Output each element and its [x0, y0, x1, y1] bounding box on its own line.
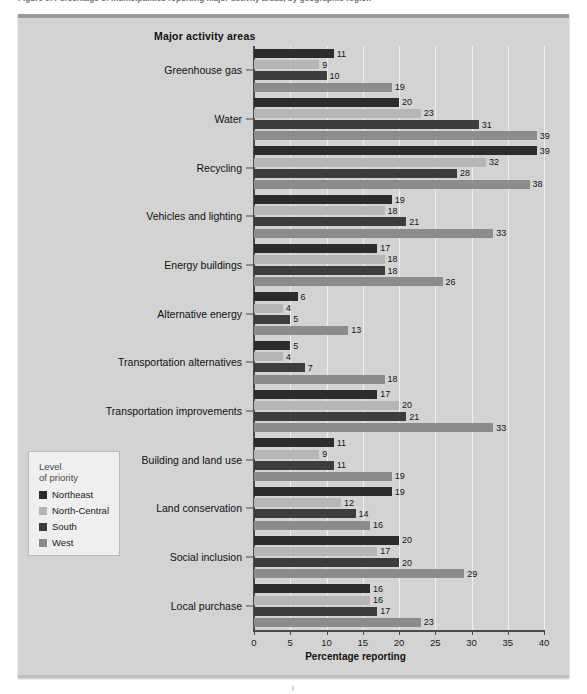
bar-group: Recycling39322838	[254, 143, 544, 192]
bar[interactable]	[254, 255, 385, 264]
bar-row: 38	[254, 180, 544, 189]
bar-value-label: 5	[290, 314, 298, 324]
bar-row: 11	[254, 49, 544, 58]
bar[interactable]	[254, 450, 319, 459]
x-axis-tick-label: 0	[251, 637, 256, 648]
bar[interactable]	[254, 547, 377, 556]
bar[interactable]	[254, 98, 399, 107]
bar[interactable]	[254, 120, 479, 129]
bar[interactable]	[254, 229, 493, 238]
bar-value-label: 4	[283, 352, 291, 362]
bar[interactable]	[254, 438, 334, 447]
bar[interactable]	[254, 584, 370, 593]
figure-caption-strip: Figure 9. Percentage of municipalities r…	[0, 0, 587, 12]
bar-value-label: 18	[385, 254, 398, 264]
bar-value-label: 14	[356, 509, 369, 519]
bar[interactable]	[254, 304, 283, 313]
bar-value-label: 39	[537, 146, 550, 156]
bar[interactable]	[254, 60, 319, 69]
category-tick	[246, 459, 254, 460]
bar-value-label: 4	[283, 303, 291, 313]
page-footer-mark	[292, 686, 294, 691]
legend-title-line-2: of priority	[39, 472, 119, 483]
bar[interactable]	[254, 363, 305, 372]
bar[interactable]	[254, 461, 334, 470]
bar[interactable]	[254, 109, 421, 118]
bar[interactable]	[254, 618, 421, 627]
bar[interactable]	[254, 326, 348, 335]
x-axis-tick-label: 40	[539, 637, 550, 648]
bar-row: 7	[254, 363, 544, 372]
bar[interactable]	[254, 169, 457, 178]
category-axis-title: Major activity areas	[154, 30, 255, 42]
bar[interactable]	[254, 244, 377, 253]
bar[interactable]	[254, 341, 290, 350]
category-label: Greenhouse gas	[164, 64, 242, 76]
bar[interactable]	[254, 390, 377, 399]
bar[interactable]	[254, 146, 537, 155]
category-tick	[246, 70, 254, 71]
bar-row: 6	[254, 292, 544, 301]
category-tick	[246, 216, 254, 217]
bar[interactable]	[254, 83, 392, 92]
bar[interactable]	[254, 315, 290, 324]
bar[interactable]	[254, 71, 327, 80]
figure-caption: Figure 9. Percentage of municipalities r…	[18, 0, 371, 3]
bar[interactable]	[254, 401, 399, 410]
bar[interactable]	[254, 412, 406, 421]
bar[interactable]	[254, 277, 443, 286]
legend-item-south[interactable]: South	[39, 521, 119, 532]
bar-value-label: 20	[399, 558, 412, 568]
bar-value-label: 16	[370, 520, 383, 530]
bar[interactable]	[254, 509, 356, 518]
bar[interactable]	[254, 292, 298, 301]
category-label: Transportation improvements	[106, 405, 242, 417]
bar-value-label: 18	[385, 206, 398, 216]
bar[interactable]	[254, 423, 493, 432]
bar[interactable]	[254, 352, 283, 361]
bar-value-label: 17	[377, 389, 390, 399]
bar[interactable]	[254, 158, 486, 167]
bar[interactable]	[254, 375, 385, 384]
category-tick	[246, 313, 254, 314]
bar[interactable]	[254, 487, 392, 496]
bar-row: 9	[254, 60, 544, 69]
bar[interactable]	[254, 217, 406, 226]
bar-value-label: 12	[341, 498, 354, 508]
bar-value-label: 19	[392, 82, 405, 92]
x-axis-tick	[472, 630, 473, 635]
legend-item-west[interactable]: West	[39, 537, 119, 548]
category-label: Energy buildings	[164, 259, 242, 271]
bar-value-label: 20	[399, 535, 412, 545]
bar[interactable]	[254, 607, 377, 616]
category-label: Transportation alternatives	[118, 356, 242, 368]
x-axis-tick-label: 15	[357, 637, 368, 648]
bar-value-label: 29	[464, 569, 477, 579]
bar-row: 18	[254, 266, 544, 275]
bar-value-label: 32	[486, 157, 499, 167]
legend-item-northeast[interactable]: Northeast	[39, 489, 119, 500]
bar[interactable]	[254, 131, 537, 140]
bar[interactable]	[254, 521, 370, 530]
bar[interactable]	[254, 195, 392, 204]
bar-row: 16	[254, 521, 544, 530]
bar[interactable]	[254, 472, 392, 481]
bar[interactable]	[254, 49, 334, 58]
bar-row: 11	[254, 461, 544, 470]
bar-row: 14	[254, 509, 544, 518]
bar[interactable]	[254, 569, 464, 578]
bar[interactable]	[254, 596, 370, 605]
bar[interactable]	[254, 266, 385, 275]
bar[interactable]	[254, 498, 341, 507]
bar[interactable]	[254, 180, 530, 189]
bar[interactable]	[254, 536, 399, 545]
category-label: Recycling	[196, 162, 242, 174]
bar-group: Transportation alternatives54718	[254, 338, 544, 387]
bar-value-label: 23	[421, 617, 434, 627]
bar-value-label: 5	[290, 341, 298, 351]
legend-swatch-icon	[39, 539, 47, 547]
bar[interactable]	[254, 206, 385, 215]
bar-row: 18	[254, 255, 544, 264]
legend-item-north-central[interactable]: North-Central	[39, 505, 119, 516]
bar[interactable]	[254, 558, 399, 567]
